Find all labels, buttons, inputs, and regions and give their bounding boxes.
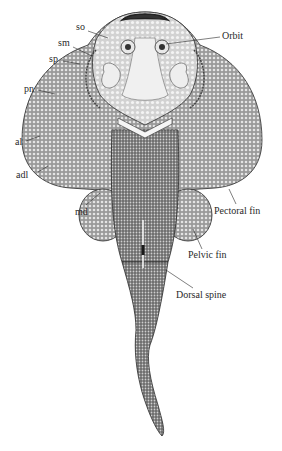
label-pn: pn [24,83,34,94]
label-sp: sp [49,53,58,64]
label-dorsal-spine: Dorsal spine [176,289,227,300]
label-orbit: Orbit [222,30,243,41]
dorsal-spine [142,245,145,255]
tail [122,262,168,436]
ray-anatomy-figure: so sm sp pn al adl md Orbit Pectoral fin… [0,0,282,451]
label-al: al [15,136,22,147]
orbit-right-inner [159,44,165,50]
orbit-left-inner [125,44,131,50]
anatomy-drawing: so sm sp pn al adl md Orbit Pectoral fin… [0,0,282,451]
trunk [111,130,178,262]
leader-dorsal-spine [166,270,193,288]
label-so: so [76,21,85,32]
label-pectoral-fin: Pectoral fin [214,205,260,216]
label-sm: sm [58,37,70,48]
leader-pectoral [229,189,236,204]
label-adl: adl [16,169,28,180]
label-pelvic-fin: Pelvic fin [188,249,227,260]
label-md: md [75,206,88,217]
